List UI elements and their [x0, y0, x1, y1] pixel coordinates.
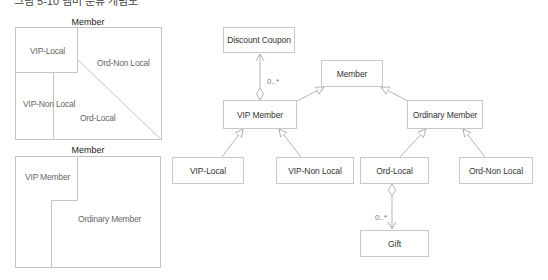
multiplicity-gift: 0..* — [375, 213, 387, 222]
aggregation-diamond-icon — [257, 88, 264, 100]
class-member: Member — [321, 60, 383, 87]
ordinary-generalization — [381, 87, 408, 101]
venn-bottom-title: Member — [15, 145, 161, 155]
class-vip-non-local: VIP-Non Local — [276, 157, 354, 184]
class-ordinary-member: Ordinary Member — [407, 100, 483, 129]
aggregation-diamond-icon — [389, 184, 396, 196]
venn-region-ord-local: Ord-Local — [80, 113, 116, 123]
class-vip-local: VIP-Local — [172, 157, 244, 184]
class-discount-coupon: Discount Coupon — [223, 27, 295, 53]
venn-region-ordinary-member: Ordinary Member — [78, 214, 141, 224]
class-vip-member: VIP Member — [223, 100, 297, 129]
ord-nonlocal-generalization — [463, 129, 485, 157]
venn-region-vip-member: VIP Member — [25, 172, 70, 182]
venn-top-title: Member — [15, 17, 161, 27]
venn-region-vip-non-local: VIP-Non Local — [23, 99, 75, 109]
venn-region-vip-local: VIP-Local — [30, 46, 65, 56]
vip-local-generalization — [222, 129, 243, 157]
class-ord-non-local: Ord-Non Local — [459, 157, 533, 184]
class-gift: Gift — [360, 230, 429, 257]
vip-nonlocal-generalization — [279, 129, 301, 157]
venn-region-ord-non-local: Ord-Non Local — [97, 58, 150, 68]
vip-generalization — [297, 87, 324, 101]
ord-local-generalization — [400, 129, 426, 157]
class-ord-local: Ord-Local — [360, 157, 429, 184]
multiplicity-coupon: 0..* — [267, 77, 279, 86]
